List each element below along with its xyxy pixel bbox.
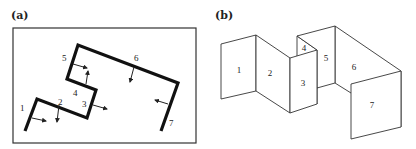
normal-arrow-4 xyxy=(86,71,88,84)
wall-face-2 xyxy=(256,35,290,113)
panel-b-label: (b) xyxy=(215,9,233,22)
face-label-3: 3 xyxy=(301,78,306,88)
segment-label-5: 5 xyxy=(62,53,67,63)
normal-arrow-5 xyxy=(73,64,87,68)
segment-label-3: 3 xyxy=(82,99,87,109)
normal-arrow-6 xyxy=(130,67,134,82)
face-label-2: 2 xyxy=(268,68,273,78)
face-label-5: 5 xyxy=(324,53,329,63)
face-label-6: 6 xyxy=(352,62,357,72)
panel-a-label: (a) xyxy=(11,9,29,22)
wall-polyline xyxy=(25,45,178,131)
normal-arrow-1 xyxy=(32,118,46,121)
segment-label-4: 4 xyxy=(73,88,78,98)
figure: (a) 1 2 3 4 5 6 7 (b) xyxy=(0,0,416,149)
face-label-1: 1 xyxy=(237,65,242,75)
normal-arrow-3 xyxy=(93,105,107,109)
segment-label-1: 1 xyxy=(20,103,25,113)
panel-a: (a) 1 2 3 4 5 6 7 xyxy=(11,9,196,143)
segment-label-6: 6 xyxy=(134,53,139,63)
face-label-7: 7 xyxy=(370,100,375,110)
face-label-4: 4 xyxy=(302,43,307,53)
segment-label-2: 2 xyxy=(58,97,63,107)
panel-b: (b) 1 2 3 4 5 6 7 xyxy=(215,9,401,139)
segment-label-7: 7 xyxy=(169,118,174,128)
normal-arrow-7 xyxy=(155,100,168,104)
